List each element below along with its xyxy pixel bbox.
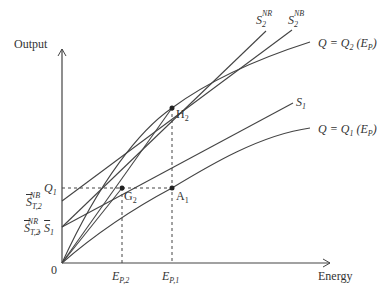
q1-tick-label: Q1 (44, 182, 57, 194)
s2nr-label: S2NR (256, 14, 272, 26)
origin-label: 0 (51, 264, 57, 276)
x-axis-label: Energy (318, 270, 352, 282)
y-axis-label: Output (14, 38, 47, 50)
s1-line (62, 103, 293, 227)
point-a1 (170, 186, 175, 191)
st2nb-tick-label: ST,2NB (26, 196, 40, 208)
g2-label: G2 (124, 190, 137, 202)
q2-curve-label: Q = Q2 (EP) (318, 37, 377, 49)
q1-curve-label: Q = Q1 (EP) (318, 123, 377, 135)
point-h2 (170, 106, 175, 111)
q2-curve (62, 42, 310, 263)
a1-label: A1 (176, 190, 189, 202)
g2-ray-from-origin (62, 188, 122, 263)
s2nb-label: S2NB (288, 14, 304, 26)
ep2-tick-label: EP,2 (112, 270, 129, 282)
h2-label: H2 (176, 108, 189, 120)
s2nr-line (62, 31, 266, 227)
s1-label: S1 (296, 96, 306, 108)
st2nr-s1-tick-label: ST,2NR, S1 (24, 222, 54, 234)
ep1-tick-label: EP,1 (162, 270, 179, 282)
